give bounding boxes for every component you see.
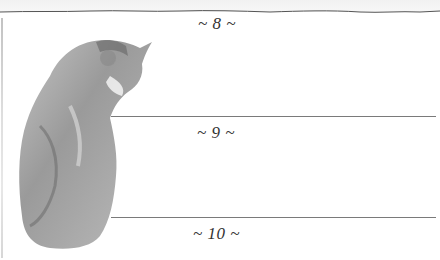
page-number-10: ~ 10 ~ — [193, 224, 240, 244]
cat-illustration — [10, 36, 160, 258]
left-border — [1, 18, 3, 258]
page-number-8: ~ 8 ~ — [198, 14, 236, 34]
divider-line-1 — [111, 116, 436, 117]
page-number-9: ~ 9 ~ — [197, 123, 235, 143]
divider-line-2 — [111, 217, 436, 218]
